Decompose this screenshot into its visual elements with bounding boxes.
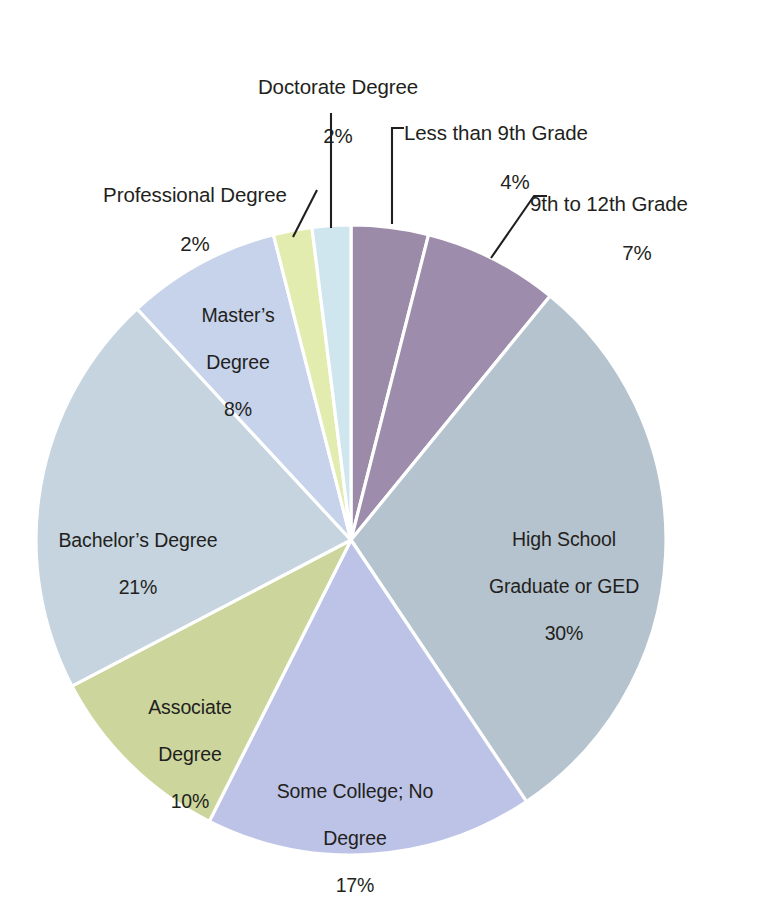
label-masters-line1: Master’s: [158, 304, 318, 327]
label-associate-percent: 10%: [110, 790, 270, 813]
label-9th-to-12th-name: 9th to 12th Grade: [530, 192, 766, 217]
label-high-school-percent: 30%: [456, 622, 672, 645]
label-9th-to-12th-percent: 7%: [530, 241, 744, 266]
label-high-school-graduate: High School Graduate or GED 30%: [456, 505, 672, 669]
label-high-school-line1: High School: [456, 528, 672, 551]
label-less-than-9th-name: Less than 9th Grade: [404, 121, 654, 146]
label-bachelors-name: Bachelor’s Degree: [20, 529, 256, 552]
label-bachelors-percent: 21%: [20, 576, 256, 599]
label-associate-line2: Degree: [110, 743, 270, 766]
label-some-college-no-degree: Some College; No Degree 17%: [243, 757, 467, 917]
label-masters-percent: 8%: [158, 398, 318, 421]
label-associate-line1: Associate: [110, 696, 270, 719]
label-9th-to-12th-grade: 9th to 12th Grade 7%: [530, 167, 766, 290]
label-professional-degree: Professional Degree 2%: [74, 158, 316, 281]
label-professional-percent: 2%: [74, 232, 316, 257]
label-masters-line2: Degree: [158, 351, 318, 374]
label-bachelors-degree: Bachelor’s Degree 21%: [20, 506, 256, 623]
label-associate-degree: Associate Degree 10%: [110, 673, 270, 837]
label-some-college-percent: 17%: [243, 874, 467, 897]
label-some-college-line1: Some College; No: [243, 780, 467, 803]
label-high-school-line2: Graduate or GED: [456, 575, 672, 598]
pie-chart: Doctorate Degree 2% Professional Degree …: [0, 0, 767, 917]
label-professional-name: Professional Degree: [74, 183, 316, 208]
label-some-college-line2: Degree: [243, 827, 467, 850]
label-masters-degree: Master’s Degree 8%: [158, 281, 318, 445]
